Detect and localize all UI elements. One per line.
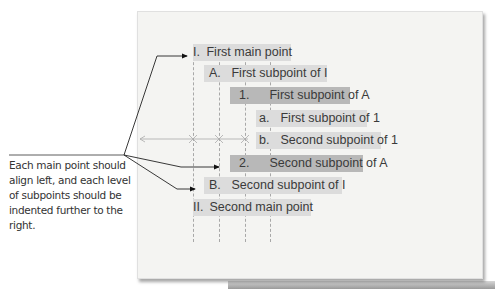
- arrow-to-subpoint-2: [124, 155, 219, 167]
- callout-arrows: [0, 0, 495, 289]
- arrow-to-main-point-1: [124, 56, 187, 155]
- arrow-to-subpoint-B: [124, 155, 195, 189]
